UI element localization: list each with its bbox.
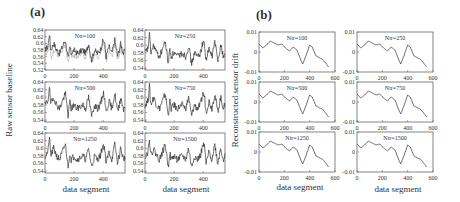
y-tick-label: 0 (352, 149, 355, 155)
y-tick-label: 0.6 (36, 94, 44, 100)
y-tick-label: 0.6 (36, 40, 44, 46)
x-tick-label: 0 (44, 73, 47, 79)
y-tick-label: 0.56 (33, 160, 44, 166)
x-tick-label: 600 (429, 175, 438, 181)
y-tick-label: 0 (254, 99, 257, 105)
y-tick-label: 0 (254, 149, 257, 155)
subplot-b-1: -0.0100.010200400600Ntr=100 (245, 29, 340, 81)
y-tick-label: 0.64 (33, 130, 44, 136)
y-tick-label: 0.64 (133, 27, 144, 33)
subplot-b-3: -0.0100.010200400600Ntr=500 (245, 79, 340, 131)
y-tick-label: 0.58 (133, 50, 144, 56)
y-tick-label: 0 (352, 99, 355, 105)
y-tick-label: 0.62 (133, 87, 144, 93)
y-tick-label: 0.54 (33, 60, 44, 66)
y-tick-label: 0.64 (133, 130, 144, 136)
subplot-b-4: -0.0100.010200400600Ntr=750 (343, 79, 438, 131)
x-tick-label: 400 (403, 175, 412, 181)
x-tick-label: 0 (44, 176, 47, 182)
x-tick-label: 0 (356, 175, 359, 181)
x-tick-label: 400 (99, 125, 108, 131)
x-tick-label: 0 (44, 125, 47, 131)
x-tick-label: 600 (331, 175, 340, 181)
x-tick-label: 0 (356, 125, 359, 131)
y-tick-label: 0 (254, 49, 257, 55)
y-tick-label: 0.62 (33, 34, 44, 40)
y-tick-label: 0.01 (345, 79, 356, 85)
x-tick-label: 400 (199, 73, 208, 79)
y-tick-label: 0.64 (33, 27, 44, 33)
x-tick-label: 400 (403, 125, 412, 131)
y-tick-label: 0.56 (33, 109, 44, 115)
y-tick-label: 0.58 (133, 153, 144, 159)
x-tick-label: 600 (429, 75, 438, 81)
x-tick-label: 400 (199, 125, 208, 131)
y-tick-label: 0.56 (33, 54, 44, 60)
subplot-title: Ntr=100 (287, 35, 307, 41)
y-tick-label: -0.01 (245, 119, 258, 125)
panel-b-xlabel-left: data segment (276, 182, 324, 192)
y-tick-label: 0.64 (133, 79, 144, 85)
y-tick-label: -0.01 (245, 169, 258, 175)
figure: (a) (b) Raw sensor baseline Reconstructe… (0, 0, 460, 202)
y-tick-label: -0.01 (343, 119, 356, 125)
y-tick-label: 0.01 (247, 129, 258, 135)
y-tick-label: 0.01 (247, 29, 258, 35)
subplot-b-2: -0.0100.010200400600Ntr=250 (343, 29, 438, 81)
y-tick-label: 0.54 (33, 117, 44, 123)
y-tick-label: 0.6 (136, 94, 144, 100)
y-tick-label: -0.01 (343, 169, 356, 175)
subplot-title: Ntr=500 (75, 85, 95, 91)
panel-a-label: (a) (30, 4, 45, 19)
subplot-title: Ntr=750 (175, 85, 195, 91)
x-tick-label: 200 (70, 125, 79, 131)
y-tick-label: 0.52 (33, 67, 44, 73)
y-tick-label: 0.6 (136, 145, 144, 151)
subplot-title: Ntr=1250 (73, 136, 96, 142)
subplot-a-1: 0.520.540.560.580.60.620.640200400Ntr=10… (33, 27, 125, 79)
panel-b-ylabel: Reconstructed sensor drift (230, 52, 240, 147)
subplot-a-5: 0.540.560.580.60.620.640200400Ntr=1250 (33, 130, 125, 182)
subplot-title: Ntr=1500 (173, 136, 196, 142)
y-tick-label: 0.58 (133, 102, 144, 108)
x-tick-label: 200 (280, 175, 289, 181)
panel-b-label: (b) (256, 7, 272, 22)
subplot-title: Ntr=100 (75, 33, 95, 39)
subplot-b-5: -0.0100.010200400600Ntr=1250 (245, 129, 340, 181)
y-tick-label: 0.58 (33, 102, 44, 108)
y-tick-label: 0 (352, 49, 355, 55)
y-tick-label: 0.01 (345, 29, 356, 35)
x-tick-label: 200 (70, 176, 79, 182)
subplot-a-6: 0.540.560.580.60.620.640200400Ntr=1500 (133, 130, 225, 182)
subplot-b-6: -0.0100.010200400600Ntr=1500 (343, 129, 438, 181)
subplot-title: Ntr=250 (175, 33, 195, 39)
x-tick-label: 200 (170, 73, 179, 79)
x-tick-label: 0 (258, 175, 261, 181)
x-tick-label: 200 (280, 75, 289, 81)
x-tick-label: 200 (70, 73, 79, 79)
y-tick-label: 0.62 (133, 138, 144, 144)
y-tick-label: 0.56 (133, 57, 144, 63)
subplot-title: Ntr=1500 (383, 135, 406, 141)
subplot-title: Ntr=750 (385, 85, 405, 91)
x-tick-label: 400 (305, 75, 314, 81)
x-tick-label: 200 (378, 175, 387, 181)
subplot-a-2: 0.540.560.580.60.620.640200400Ntr=250 (133, 27, 225, 79)
x-tick-label: 0 (258, 125, 261, 131)
panel-a-xlabel-left: data segment (62, 184, 110, 194)
y-tick-label: 0.56 (133, 109, 144, 115)
y-tick-label: 0.62 (33, 87, 44, 93)
x-tick-label: 400 (403, 75, 412, 81)
x-tick-label: 200 (170, 176, 179, 182)
y-tick-label: 0.54 (133, 65, 144, 71)
x-tick-label: 0 (356, 75, 359, 81)
x-tick-label: 200 (378, 75, 387, 81)
panel-a-xlabel-right: data segment (162, 184, 210, 194)
y-tick-label: -0.01 (245, 69, 258, 75)
x-tick-label: 600 (331, 75, 340, 81)
y-tick-label: 0.62 (33, 138, 44, 144)
subplot-a-4: 0.540.560.580.60.620.640200400Ntr=750 (133, 79, 225, 131)
panel-b-xlabel-right: data segment (374, 184, 422, 194)
subplot-title: Ntr=500 (287, 85, 307, 91)
y-tick-label: 0.58 (33, 153, 44, 159)
